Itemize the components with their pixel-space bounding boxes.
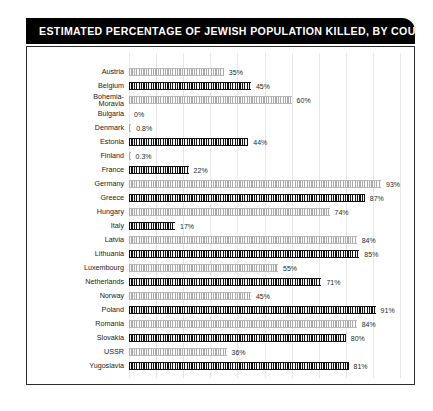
- bar-value-label: 91%: [381, 307, 395, 314]
- bar-value-label: 84%: [362, 321, 376, 328]
- chart-row: Bulgaria0%: [129, 107, 400, 121]
- bar: [129, 166, 189, 174]
- chart-figure: ESTIMATED PERCENTAGE OF JEWISH POPULATIO…: [18, 18, 415, 390]
- bar: [129, 362, 349, 370]
- bar: [129, 124, 131, 132]
- bar: [129, 334, 346, 342]
- bar-wrap: 36%: [129, 345, 400, 359]
- bar-value-label: 44%: [253, 139, 267, 146]
- chart-row: Denmark0.8%: [129, 121, 400, 135]
- bar-wrap: 0.3%: [129, 149, 400, 163]
- chart-row: Luxembourg55%: [129, 261, 400, 275]
- bar: [129, 278, 321, 286]
- chart-row: Hungary74%: [129, 205, 400, 219]
- bar: [129, 292, 251, 300]
- bar-wrap: 0%: [129, 107, 400, 121]
- bar-wrap: 84%: [129, 317, 400, 331]
- chart-row: Austria35%: [129, 65, 400, 79]
- bar: [129, 348, 227, 356]
- chart-title-banner: ESTIMATED PERCENTAGE OF JEWISH POPULATIO…: [26, 18, 415, 44]
- row-label-finland: Finland: [24, 152, 129, 159]
- row-label-greece: Greece: [24, 194, 129, 201]
- bar: [129, 320, 357, 328]
- bar-value-label: 45%: [256, 83, 270, 90]
- bar-wrap: 22%: [129, 163, 400, 177]
- bar-wrap: 84%: [129, 233, 400, 247]
- chart-row: Finland0.3%: [129, 149, 400, 163]
- bar: [129, 96, 292, 104]
- row-label-norway: Norway: [24, 292, 129, 299]
- chart-row: Germany93%: [129, 177, 400, 191]
- chart-row: Latvia84%: [129, 233, 400, 247]
- bar-value-label: 35%: [229, 69, 243, 76]
- chart-row: Slovakia80%: [129, 331, 400, 345]
- bar-value-label: 36%: [232, 349, 246, 356]
- chart-row: Romania84%: [129, 317, 400, 331]
- bar-wrap: 55%: [129, 261, 400, 275]
- chart-row: France22%: [129, 163, 400, 177]
- row-label-estonia: Estonia: [24, 138, 129, 145]
- row-label-bulgaria: Bulgaria: [24, 110, 129, 117]
- bar: [129, 250, 359, 258]
- chart-row: Norway45%: [129, 289, 400, 303]
- chart-row: Italy17%: [129, 219, 400, 233]
- chart-row: USSR36%: [129, 345, 400, 359]
- bar-wrap: 45%: [129, 289, 400, 303]
- bar-wrap: 45%: [129, 79, 400, 93]
- gridline: [400, 53, 401, 378]
- page-title: ESTIMATED PERCENTAGE OF JEWISH POPULATIO…: [39, 25, 433, 37]
- bar: [129, 222, 175, 230]
- chart-row: Belgium45%: [129, 79, 400, 93]
- bar-wrap: 17%: [129, 219, 400, 233]
- bar-wrap: 91%: [129, 303, 400, 317]
- chart-frame: Austria35%Belgium45%Bohemia- Moravia60%B…: [26, 46, 415, 385]
- row-label-poland: Poland: [24, 306, 129, 313]
- row-label-belgium: Belgium: [24, 82, 129, 89]
- chart-row: Greece87%: [129, 191, 400, 205]
- bar-wrap: 60%: [129, 93, 400, 107]
- row-label-denmark: Denmark: [24, 124, 129, 131]
- bar: [129, 180, 381, 188]
- bar-value-label: 0.3%: [136, 153, 152, 160]
- row-label-yugoslavia: Yugoslavia: [24, 362, 129, 369]
- bar-wrap: 93%: [129, 177, 400, 191]
- chart-row: Lithuania85%: [129, 247, 400, 261]
- bar-wrap: 35%: [129, 65, 400, 79]
- chart-row: Netherlands71%: [129, 275, 400, 289]
- bar: [129, 152, 131, 160]
- row-label-luxembourg: Luxembourg: [24, 264, 129, 271]
- row-label-lithuania: Lithuania: [24, 250, 129, 257]
- bar: [129, 208, 330, 216]
- bar-wrap: 87%: [129, 191, 400, 205]
- row-label-slovakia: Slovakia: [24, 334, 129, 341]
- bar-value-label: 87%: [370, 195, 384, 202]
- bar-wrap: 80%: [129, 331, 400, 345]
- plot-area: Austria35%Belgium45%Bohemia- Moravia60%B…: [27, 47, 414, 384]
- row-label-romania: Romania: [24, 320, 129, 327]
- row-label-austria: Austria: [24, 68, 129, 75]
- chart-row: Poland91%: [129, 303, 400, 317]
- bar: [129, 82, 251, 90]
- bar-value-label: 0.8%: [136, 125, 152, 132]
- bar-value-label: 80%: [351, 335, 365, 342]
- bar-value-label: 17%: [180, 223, 194, 230]
- bar-rows: Austria35%Belgium45%Bohemia- Moravia60%B…: [129, 65, 400, 373]
- bar-value-label: 45%: [256, 293, 270, 300]
- bar: [129, 264, 278, 272]
- bars-container: Austria35%Belgium45%Bohemia- Moravia60%B…: [129, 47, 400, 384]
- bar-value-label: 71%: [326, 279, 340, 286]
- bar-value-label: 22%: [194, 167, 208, 174]
- bar-value-label: 93%: [386, 181, 400, 188]
- bar-value-label: 60%: [297, 97, 311, 104]
- chart-row: Estonia44%: [129, 135, 400, 149]
- bar: [129, 236, 357, 244]
- chart-row: Bohemia- Moravia60%: [129, 93, 400, 107]
- bar: [129, 138, 248, 146]
- chart-row: Yugoslavia81%: [129, 359, 400, 373]
- bar-value-label: 74%: [335, 209, 349, 216]
- bar-value-label: 81%: [354, 363, 368, 370]
- row-label-latvia: Latvia: [24, 236, 129, 243]
- bar: [129, 194, 365, 202]
- bar-value-label: 0%: [134, 111, 144, 118]
- bar-value-label: 84%: [362, 237, 376, 244]
